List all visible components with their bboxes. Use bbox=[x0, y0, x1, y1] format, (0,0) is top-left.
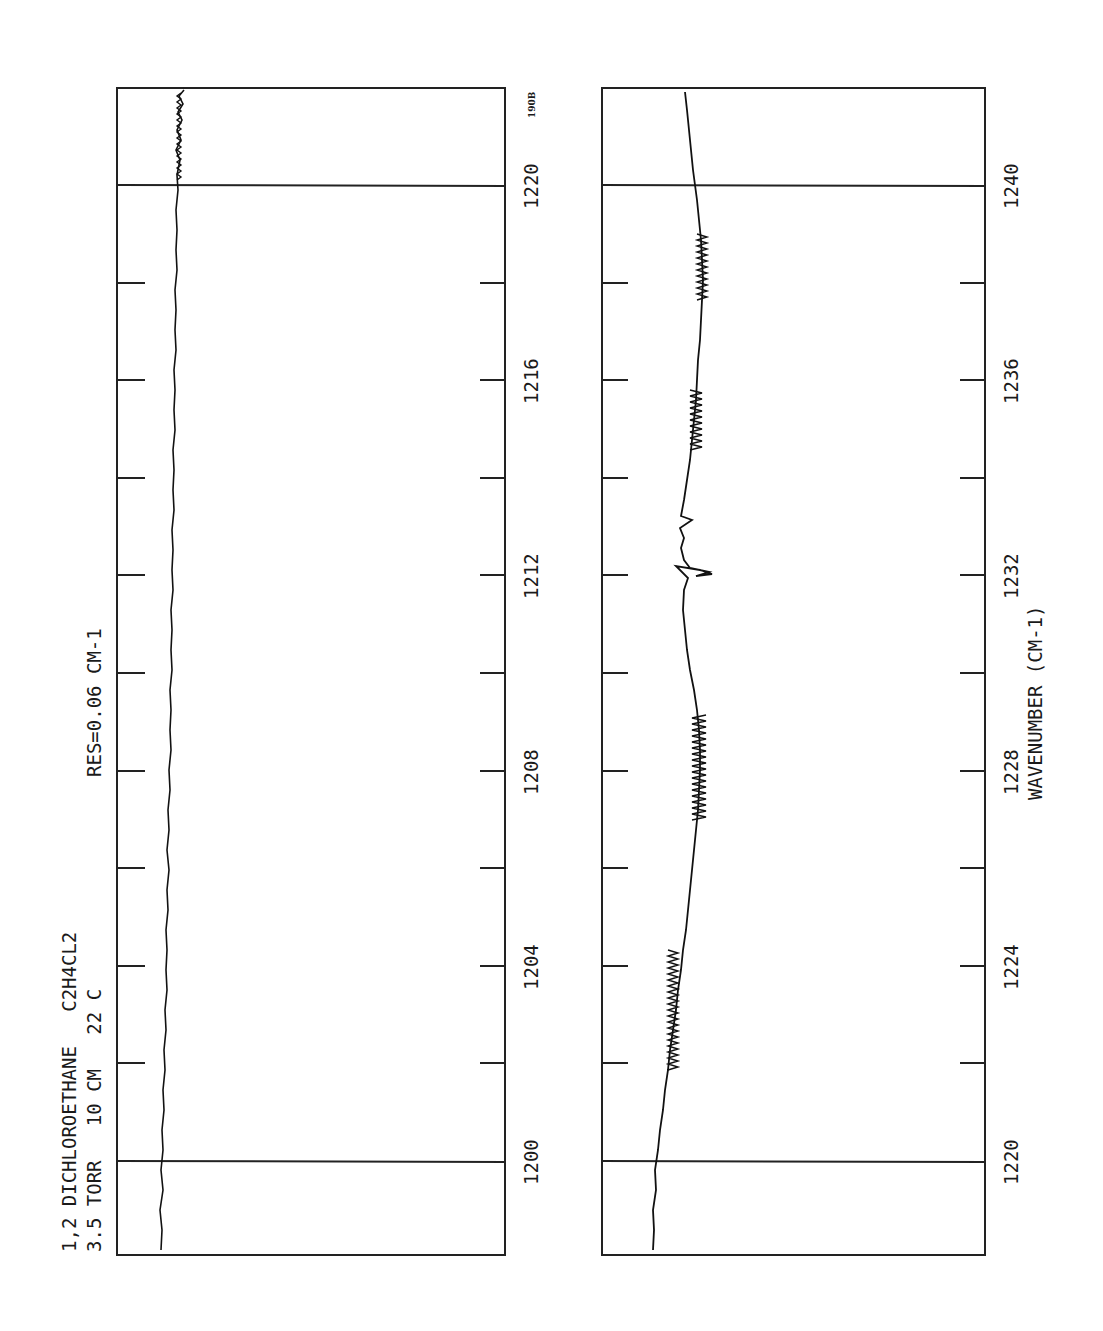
compound-title: 1,2 DICHLOROETHANE C2H4CL2 bbox=[58, 932, 80, 1252]
left-tick-label-1220: 1220 bbox=[520, 163, 542, 209]
conditions-label: 3.5 TORR 10 CM 22 C bbox=[83, 989, 105, 1252]
x-axis-label: WAVENUMBER (CM-1) bbox=[1024, 606, 1046, 800]
left-tick-label-1200: 1200 bbox=[520, 1139, 542, 1185]
right-tick-label-1220: 1220 bbox=[1000, 1139, 1022, 1185]
right-tick-label-1240: 1240 bbox=[1000, 163, 1022, 209]
right-tick-label-1232: 1232 bbox=[1000, 553, 1022, 599]
right-panel-range-line-1220 bbox=[602, 1161, 985, 1162]
left-tick-label-1204: 1204 bbox=[520, 944, 542, 990]
right-tick-label-1236: 1236 bbox=[1000, 358, 1022, 404]
left-tick-label-1216: 1216 bbox=[520, 358, 542, 404]
left-spectrum-trace bbox=[160, 90, 184, 1250]
left-panel-range-line-1220 bbox=[117, 185, 505, 186]
left-panel-frame bbox=[117, 88, 505, 1255]
spectrum-chart bbox=[0, 0, 1103, 1331]
left-panel-range-line-1200 bbox=[117, 1161, 505, 1162]
right-panel-range-line-1240 bbox=[602, 185, 985, 186]
right-panel-ticks bbox=[602, 283, 985, 1063]
plate-id-label: 190B bbox=[527, 92, 537, 118]
left-tick-label-1208: 1208 bbox=[520, 749, 542, 795]
left-tick-label-1212: 1212 bbox=[520, 553, 542, 599]
right-panel-frame bbox=[602, 88, 985, 1255]
right-trace-noise-band-1228 bbox=[692, 715, 706, 820]
right-tick-label-1228: 1228 bbox=[1000, 749, 1022, 795]
resolution-label: RES=0.06 CM-1 bbox=[83, 628, 105, 777]
right-tick-label-1224: 1224 bbox=[1000, 944, 1022, 990]
